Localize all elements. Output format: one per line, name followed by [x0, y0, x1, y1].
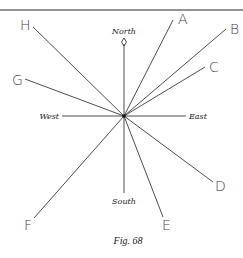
ray-label-b: B: [230, 21, 239, 37]
east-label: East: [188, 112, 208, 121]
north-label: North: [111, 27, 136, 36]
ray-label-h: H: [20, 17, 31, 33]
ray-d: [124, 116, 213, 182]
center-point: [122, 114, 126, 118]
ray-label-d: D: [215, 178, 226, 194]
west-label: West: [39, 112, 59, 121]
ray-label-g: G: [12, 72, 23, 88]
figure-caption: Fig. 68: [113, 235, 143, 246]
ray-label-f: F: [24, 217, 32, 233]
ray-h: [33, 27, 124, 116]
ray-label-e: E: [162, 217, 171, 233]
south-label: South: [112, 197, 136, 206]
ray-g: [25, 79, 124, 116]
ray-f: [34, 116, 124, 218]
ray-label-c: C: [209, 59, 219, 75]
ray-label-a: A: [178, 11, 188, 27]
compass-diagram: ABCDEFGH North South West East Fig. 68: [0, 0, 243, 258]
